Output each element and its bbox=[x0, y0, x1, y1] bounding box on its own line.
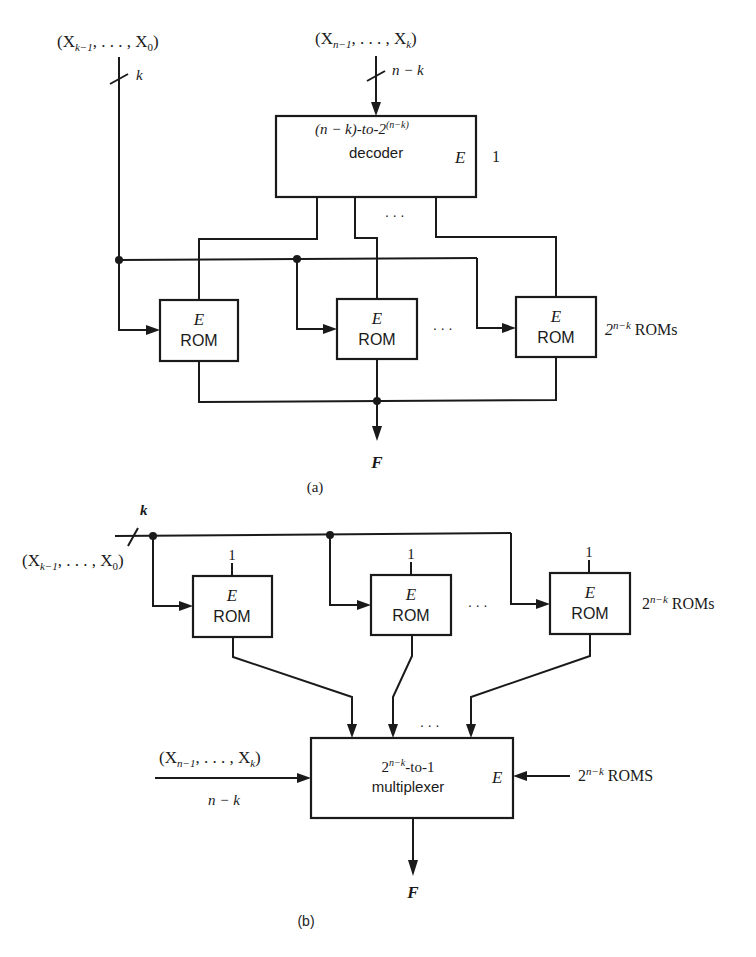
mux-enable-label: E bbox=[491, 768, 503, 787]
decoder-output-n-wire bbox=[436, 197, 556, 297]
rom-n-output-wire-b bbox=[471, 634, 590, 726]
enable-input-label: 2n−k ROMS bbox=[578, 765, 653, 784]
arrow-down-icon bbox=[347, 724, 357, 738]
rom-0-address-wire-a bbox=[119, 260, 148, 330]
junction-dot-icon bbox=[373, 397, 381, 405]
rom-enable-label: E bbox=[371, 309, 383, 328]
rom-enable-value: 1 bbox=[407, 546, 415, 562]
rom-block-a-0: E ROM bbox=[160, 300, 238, 361]
arrow-right-icon bbox=[502, 323, 516, 333]
figure-a: (Xk−1, . . . , X0) k (Xn−1, . . . , Xk) … bbox=[57, 29, 678, 496]
rom-ellipsis-a: . . . bbox=[433, 317, 452, 333]
arrow-down-icon bbox=[371, 102, 381, 116]
select-input-width: n − k bbox=[208, 792, 240, 808]
arrow-right-icon bbox=[179, 601, 193, 611]
arrow-left-icon bbox=[513, 771, 527, 781]
rom-enable-value: 1 bbox=[585, 544, 593, 560]
rom-0-address-wire-b bbox=[153, 536, 181, 606]
input-low-label-a: (Xk−1, . . . , X0) bbox=[57, 32, 159, 53]
arrow-right-icon bbox=[357, 600, 371, 610]
select-input-label: (Xn−1, . . . , Xk) bbox=[159, 748, 261, 769]
input-low-width-a: k bbox=[136, 67, 143, 83]
rom-enable-label: E bbox=[584, 583, 596, 602]
rom-label: ROM bbox=[358, 331, 395, 348]
rom-n-address-wire-b bbox=[511, 533, 538, 604]
rom-n-address-wire-a bbox=[477, 258, 504, 328]
rom-label: ROM bbox=[213, 608, 250, 625]
decoder-output-1-wire bbox=[355, 197, 377, 299]
arrow-right-icon bbox=[323, 324, 337, 334]
arrow-down-icon bbox=[466, 724, 476, 738]
rom-block-b-n: E ROM bbox=[550, 573, 630, 634]
caption-a: (a) bbox=[307, 479, 324, 496]
rom-enable-label: E bbox=[193, 310, 205, 329]
input-low-label-b: (Xk−1, . . . , X0) bbox=[22, 551, 124, 572]
figure-b: k (Xk−1, . . . , X0) 1 1 1 E ROM E ROM bbox=[22, 502, 715, 929]
rom-block-a-n: E ROM bbox=[516, 297, 596, 357]
mux-label-line2: multiplexer bbox=[372, 778, 445, 795]
arrow-down-icon bbox=[372, 426, 382, 441]
rom-block-b-0: E ROM bbox=[193, 576, 272, 637]
rom-enable-value: 1 bbox=[228, 547, 236, 563]
input-low-width-b: k bbox=[140, 502, 148, 518]
rom-block-a-1: E ROM bbox=[337, 299, 417, 359]
input-high-width-a: n − k bbox=[392, 62, 424, 78]
address-bus-b bbox=[115, 533, 511, 536]
rom-enable-label: E bbox=[405, 585, 417, 604]
decoder-enable-label: E bbox=[454, 148, 466, 167]
input-high-label-a: (Xn−1, . . . , Xk) bbox=[315, 29, 417, 50]
decoder-enable-value: 1 bbox=[492, 148, 500, 165]
rom-0-output-wire-b bbox=[233, 637, 352, 726]
arrow-right-icon bbox=[146, 325, 160, 335]
bus-width-slash-icon bbox=[128, 528, 138, 546]
rom-count-label-b: 2n−k ROMs bbox=[642, 593, 715, 612]
rom-ellipsis-b: . . . bbox=[468, 594, 487, 610]
caption-b: (b) bbox=[297, 913, 314, 929]
rom-enable-label: E bbox=[226, 586, 238, 605]
rom-1-output-wire-b bbox=[393, 635, 412, 726]
rom-1-address-wire-b bbox=[330, 535, 359, 605]
decoder-output-0-wire bbox=[199, 197, 317, 300]
arrow-right-icon bbox=[297, 773, 311, 783]
output-label-a: F bbox=[370, 453, 383, 472]
rom-expansion-diagram: (Xk−1, . . . , X0) k (Xn−1, . . . , Xk) … bbox=[0, 0, 756, 957]
rom-label: ROM bbox=[571, 605, 608, 622]
rom-1-address-wire-a bbox=[297, 259, 325, 329]
rom-enable-label: E bbox=[550, 307, 562, 326]
rom-count-label-a: 2n−k ROMs bbox=[605, 319, 678, 338]
decoder-label-line2: decoder bbox=[349, 144, 403, 161]
arrow-right-icon bbox=[536, 599, 550, 609]
mux-input-ellipsis: . . . bbox=[420, 714, 439, 730]
rom-label: ROM bbox=[180, 332, 217, 349]
arrow-down-icon bbox=[388, 724, 398, 738]
rom-label: ROM bbox=[537, 329, 574, 346]
decoder-ellipsis: . . . bbox=[385, 204, 404, 220]
rom-block-b-1: E ROM bbox=[371, 575, 451, 635]
arrow-down-icon bbox=[408, 860, 418, 876]
output-label-b: F bbox=[406, 883, 419, 902]
rom-label: ROM bbox=[392, 607, 429, 624]
